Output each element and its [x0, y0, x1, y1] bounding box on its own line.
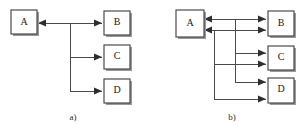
arrowhead-b-to-b-1 [258, 16, 266, 23]
panel-b-caption: b) [228, 112, 236, 122]
figure-canvas: A B C D a) [0, 0, 297, 129]
b-node-c-label: C [278, 51, 285, 62]
b-node-a[interactable]: A [176, 10, 206, 39]
b-node-d[interactable]: D [268, 78, 296, 105]
panel-b: A B C D b) [0, 0, 297, 129]
arrowhead-b-to-d-2 [258, 96, 266, 103]
b-node-b[interactable]: B [268, 11, 296, 38]
arrowhead-b-to-b-2 [258, 27, 266, 34]
b-node-b-label: B [278, 17, 285, 28]
b-node-c[interactable]: C [268, 46, 296, 72]
b-node-a-label: A [186, 17, 194, 28]
b-node-d-label: D [277, 83, 284, 94]
arrowhead-b-to-d-1 [258, 79, 266, 86]
panel-b-edges [204, 16, 266, 103]
arrowhead-b-to-c-1 [258, 50, 266, 57]
arrowhead-b-to-c-2 [258, 61, 266, 68]
